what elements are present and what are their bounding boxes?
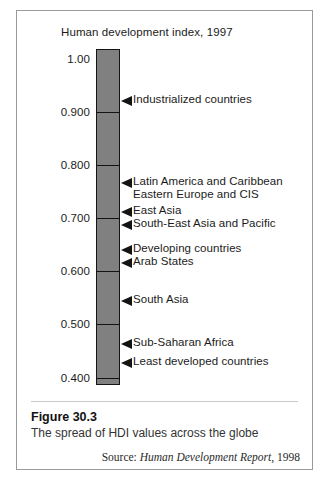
left-arrow-icon <box>121 220 132 230</box>
figure-caption: The spread of HDI values across the glob… <box>31 425 300 442</box>
tick-label-0-800: 0.800 <box>18 159 90 171</box>
annotation-latin-america-eastern-europe: Latin America and Caribbean Eastern Euro… <box>121 175 283 200</box>
annotation-label-secondary: Eastern Europe and CIS <box>133 188 283 201</box>
figure-source: Source: Human Development Report, 1998 <box>31 451 300 463</box>
annotation-label: South-East Asia and Pacific <box>133 217 276 230</box>
source-year: , 1998 <box>271 451 300 463</box>
caption-divider <box>31 401 298 402</box>
left-arrow-icon <box>121 258 132 268</box>
left-arrow-icon <box>121 207 132 217</box>
source-prefix: Source: <box>102 451 137 463</box>
annotation-sub-saharan-africa: Sub-Saharan Africa <box>121 336 234 349</box>
bar-divider-0-900 <box>96 112 120 113</box>
annotation-label: Industrialized countries <box>133 93 252 106</box>
hdi-scale-bar <box>96 49 120 385</box>
left-arrow-icon <box>121 178 132 188</box>
tick-label-0-400: 0.400 <box>18 372 90 384</box>
left-arrow-icon <box>121 358 132 368</box>
bar-divider-0-800 <box>96 165 120 166</box>
annotation-label: Arab States <box>133 255 194 268</box>
tick-label-0-500: 0.500 <box>18 318 90 330</box>
annotation-south-east-asia-pacific: South-East Asia and Pacific <box>121 217 276 230</box>
annotation-label-group: Latin America and Caribbean Eastern Euro… <box>133 175 283 200</box>
annotation-label: Sub-Saharan Africa <box>133 336 234 349</box>
left-arrow-icon <box>121 296 132 306</box>
annotation-least-developed-countries: Least developed countries <box>121 355 269 368</box>
tick-label-1-00: 1.00 <box>18 53 90 65</box>
annotation-south-asia: South Asia <box>121 293 188 306</box>
bar-divider-0-500 <box>96 324 120 325</box>
annotation-label: East Asia <box>133 204 181 217</box>
caption-block: Figure 30.3 The spread of HDI values acr… <box>31 409 300 463</box>
left-arrow-icon <box>121 339 132 349</box>
tick-label-0-600: 0.600 <box>18 265 90 277</box>
chart-area: Human development index, 1997 1.00 0.900… <box>17 11 312 399</box>
annotation-label: South Asia <box>133 293 188 306</box>
tick-label-0-900: 0.900 <box>18 106 90 118</box>
annotation-east-asia: East Asia <box>121 204 181 217</box>
annotation-label: Developing countries <box>133 242 241 255</box>
bar-divider-0-400 <box>96 378 120 379</box>
source-title: Human Development Report <box>140 451 272 463</box>
tick-label-0-700: 0.700 <box>18 212 90 224</box>
annotation-industrialized-countries: Industrialized countries <box>121 93 252 106</box>
bar-divider-0-700 <box>96 218 120 219</box>
figure-frame: Human development index, 1997 1.00 0.900… <box>16 10 313 470</box>
annotation-label: Latin America and Caribbean <box>133 175 283 187</box>
bar-divider-0-600 <box>96 271 120 272</box>
annotation-arab-states: Arab States <box>121 255 194 268</box>
axis-tick-labels: 1.00 0.900 0.800 0.700 0.600 0.500 0.400 <box>17 11 90 399</box>
left-arrow-icon <box>121 96 132 106</box>
figure-number: Figure 30.3 <box>31 409 300 425</box>
annotation-label: Least developed countries <box>133 355 269 368</box>
annotation-developing-countries: Developing countries <box>121 242 241 255</box>
left-arrow-icon <box>121 245 132 255</box>
